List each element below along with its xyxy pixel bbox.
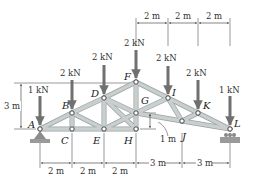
dimension-label: 2 m — [206, 11, 222, 21]
load-label: 2 kN — [60, 68, 81, 78]
joint-I — [166, 96, 170, 100]
roller-icon — [224, 133, 228, 137]
joint-label-J: J — [180, 131, 187, 142]
load-label: 2 kN — [156, 53, 177, 63]
joint-label-A: A — [27, 119, 35, 130]
joint-F — [134, 80, 138, 84]
joint-B — [70, 111, 74, 115]
joint-K — [196, 111, 200, 115]
joint-label-F: F — [123, 71, 132, 82]
load-label: 1 kN — [219, 85, 240, 95]
joint-label-C: C — [61, 135, 69, 146]
joint-D — [102, 96, 106, 100]
dimension-label: 2 m — [175, 11, 191, 21]
roller-icon — [228, 133, 232, 137]
dimension-label: 2 m — [144, 11, 160, 21]
joint-C — [70, 127, 74, 131]
load-label: 1 kN — [28, 85, 49, 95]
load-label: 2 kN — [186, 68, 207, 78]
joint-J — [180, 119, 184, 123]
roller-icon — [232, 133, 236, 137]
joint-label-K: K — [202, 100, 211, 111]
joint-label-D: D — [90, 88, 99, 99]
dimension-label: 3 m — [150, 158, 166, 168]
joint-label-L: L — [233, 118, 241, 129]
member-DF — [104, 82, 136, 98]
truss-diagram: 1 kN2 kN2 kN2 kN2 kN2 kN1 kN 2 m2 m2 m2 … — [0, 0, 256, 182]
dimension-label: 3 m — [197, 158, 213, 168]
joint-label-H: H — [123, 135, 133, 146]
dimension-label: 2 m — [112, 166, 128, 176]
dimension-label: 2 m — [80, 166, 96, 176]
ground-hatch-icon — [30, 139, 50, 143]
joint-G — [134, 111, 138, 115]
joint-label-E: E — [92, 135, 101, 146]
load-label: 2 kN — [124, 38, 145, 48]
joint-label-B: B — [61, 100, 69, 111]
load-label: 2 kN — [92, 52, 113, 62]
member-BD — [72, 98, 104, 113]
pin-support-icon — [34, 131, 46, 139]
joint-E — [102, 127, 106, 131]
joint-label-G: G — [141, 95, 149, 106]
dimension-label: 1 m — [160, 134, 176, 144]
ground-hatch-icon — [220, 137, 240, 143]
joint-H — [134, 127, 138, 131]
joint-L — [228, 127, 232, 131]
dimension-label: 3 m — [4, 101, 20, 111]
dimension-label: 2 m — [48, 166, 64, 176]
joint-A — [38, 127, 42, 131]
joint-label-I: I — [171, 87, 177, 98]
